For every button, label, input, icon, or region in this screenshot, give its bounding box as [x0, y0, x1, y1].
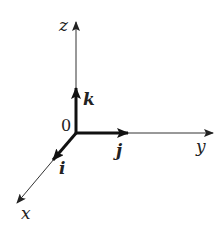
x-axis-label: x	[21, 203, 31, 223]
y-axis-label: y	[195, 136, 206, 156]
z-axis-label: z	[58, 15, 69, 35]
i-vector-label: i	[59, 158, 65, 178]
coordinate-system-diagram: z y x k j i 0	[0, 0, 224, 235]
k-vector-label: k	[83, 89, 95, 109]
j-vector-label: j	[113, 140, 123, 160]
origin-label: 0	[61, 116, 71, 135]
i-vector	[53, 132, 77, 160]
